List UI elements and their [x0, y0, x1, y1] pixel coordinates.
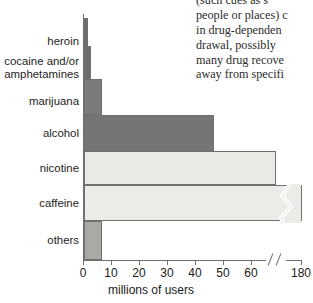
- category-label-text: heroin: [47, 35, 79, 47]
- category-label-text: caffeine: [39, 197, 79, 209]
- category-label-nicotine: nicotine: [40, 162, 79, 175]
- category-label-text: nicotine: [40, 162, 79, 174]
- x-tick-10: [111, 260, 112, 265]
- bar-chart: heroin cocaine and/or amphetamines marij…: [0, 0, 313, 303]
- axis-break-zigzag-icon: [277, 184, 301, 223]
- bar-marijuana: [84, 79, 102, 115]
- category-label-heroin: heroin: [47, 35, 79, 48]
- x-tick-label-40: 40: [188, 266, 201, 280]
- x-tick-label-180: 180: [291, 266, 311, 280]
- bar-heroin: [84, 18, 88, 46]
- x-axis-title: millions of users: [0, 283, 302, 297]
- x-tick-0: [83, 260, 84, 265]
- x-tick-label-50: 50: [216, 266, 229, 280]
- category-label-text: alcohol: [43, 127, 79, 139]
- category-label-marijuana: marijuana: [29, 95, 79, 108]
- x-tick-50: [223, 260, 224, 265]
- category-label-caffeine: caffeine: [39, 197, 79, 210]
- x-tick-20: [139, 260, 140, 265]
- bar-alcohol: [84, 115, 214, 151]
- category-label-text: marijuana: [29, 95, 79, 107]
- x-tick-60: [251, 260, 252, 265]
- bar-others: [84, 221, 102, 260]
- category-label-text: cocaine and/or: [4, 55, 79, 68]
- category-label-alcohol: alcohol: [43, 127, 79, 140]
- bar-caffeine: [84, 185, 302, 221]
- figure-root: (such cues as s people or places) c in d…: [0, 0, 313, 303]
- x-tick-label-0: 0: [80, 266, 87, 280]
- category-label-text: amphetamines: [4, 68, 79, 81]
- x-tick-label-20: 20: [132, 266, 145, 280]
- bar-cocaine-amphetamines: [84, 46, 91, 79]
- x-tick-label-10: 10: [104, 266, 117, 280]
- category-label-cocaine-amphetamines: cocaine and/or amphetamines: [4, 55, 79, 80]
- x-tick-label-30: 30: [160, 266, 173, 280]
- category-label-others: others: [47, 234, 79, 247]
- x-tick-label-60: 60: [244, 266, 257, 280]
- x-tick-30: [167, 260, 168, 265]
- x-tick-180: [301, 260, 302, 265]
- category-label-text: others: [47, 234, 79, 246]
- x-tick-40: [195, 260, 196, 265]
- bar-nicotine: [84, 151, 276, 185]
